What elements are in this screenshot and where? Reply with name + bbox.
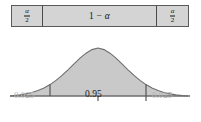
alpha-over-two-fraction-right: α 2 xyxy=(170,8,176,24)
alpha-term: α xyxy=(105,11,110,21)
fraction-denominator: 2 xyxy=(24,16,30,24)
t-distribution-plot: 0.025 0.95 0.025 0 t(19, 0.025) t xyxy=(0,30,201,122)
prob-cell-left-tail: α 2 xyxy=(12,6,43,26)
right-tail-area-label: 0.025 xyxy=(152,90,172,100)
figure-canvas: α 2 1 − α α 2 xyxy=(0,0,201,122)
prob-cell-right-tail: α 2 xyxy=(157,6,188,26)
one-minus-alpha-label: 1 − α xyxy=(89,11,110,21)
prob-cell-center: 1 − α xyxy=(43,6,157,26)
fraction-denominator: 2 xyxy=(170,16,176,24)
distribution-svg xyxy=(0,30,201,122)
probability-bar: α 2 1 − α α 2 xyxy=(11,5,189,27)
central-area-label: 0.95 xyxy=(85,89,102,99)
left-tail-area-label: 0.025 xyxy=(14,90,34,100)
alpha-over-two-fraction-left: α 2 xyxy=(24,8,30,24)
